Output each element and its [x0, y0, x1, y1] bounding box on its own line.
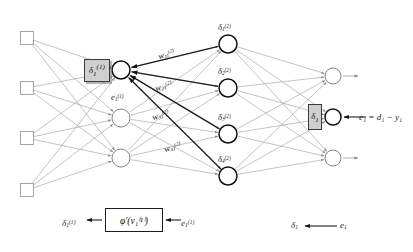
edge-input-hidden1-4-1: [31, 78, 115, 185]
hidden1-node-2: [112, 109, 130, 127]
backprop-edge-hidden2-1-to-hidden1-1: [132, 46, 219, 67]
delta-label-hidden2-2: δ2(2): [218, 67, 231, 76]
edge-hidden2-output-4-3: [238, 160, 324, 175]
edge-input-hidden1-4-2: [33, 124, 114, 186]
phi-derivative-box-text: φ′(v₁⁽¹⁾): [120, 215, 148, 226]
error-label-hidden1-neuron1: e1(1): [111, 93, 124, 102]
input-node-1: [21, 32, 34, 45]
output-node-3: [325, 150, 341, 166]
hidden2-node-4: [219, 167, 237, 185]
edge-hidden1-hidden2-3-1: [128, 51, 221, 150]
delta-box-output-neuron1-text: δ1: [311, 111, 319, 124]
delta-label-hidden2-3: δ3(2): [218, 113, 231, 122]
input-nodes: [21, 32, 34, 197]
input-node-3: [21, 132, 34, 145]
phi-derivative-box: φ′(v₁⁽¹⁾): [105, 208, 163, 232]
edge-hidden2-output-2-1: [238, 77, 324, 87]
hidden1-node-3: [112, 149, 130, 167]
output-error-equation: e₁ = d₁ − y₁: [359, 113, 402, 122]
hidden2-node-2: [219, 79, 237, 97]
bottom-delta-label: δ1(1): [62, 219, 76, 229]
delta-label-hidden2-1: δ1(2): [218, 23, 231, 32]
output-node-1: [325, 68, 341, 84]
bottom-error-label: e1(1): [181, 219, 194, 229]
output-node-2: [325, 109, 341, 125]
bottom-output-delta-label: δ1: [291, 221, 298, 231]
hidden2-node-3: [219, 125, 237, 143]
output-nodes: [325, 68, 341, 166]
backprop-diagram: δ1(1) δ1 δ1(2) δ2(2) δ3(2) δ4(2) w11(2) …: [0, 0, 413, 252]
network-graph-svg: [0, 0, 413, 252]
input-node-2: [21, 82, 34, 95]
delta-box-output-neuron1: δ1: [308, 104, 322, 130]
edge-hidden1-hidden2-3-4: [131, 160, 218, 175]
delta-box-hidden1-neuron1: δ1(1): [84, 59, 110, 82]
backprop-edge-hidden2-4-to-hidden1-1: [129, 78, 221, 169]
edge-input-hidden1-4-3: [34, 161, 112, 188]
delta-box-hidden1-neuron1-text: δ1(1): [89, 63, 105, 78]
input-node-4: [21, 184, 34, 197]
edge-hidden2-output-1-1: [238, 47, 325, 73]
hidden2-node-1: [219, 35, 237, 53]
edge-input-hidden1-2-2: [34, 90, 112, 115]
bottom-output-error-label: e1: [340, 221, 347, 231]
hidden1-nodes: [112, 61, 130, 167]
delta-label-hidden2-4: δ4(2): [218, 155, 231, 164]
hidden1-node-1: [112, 61, 130, 79]
